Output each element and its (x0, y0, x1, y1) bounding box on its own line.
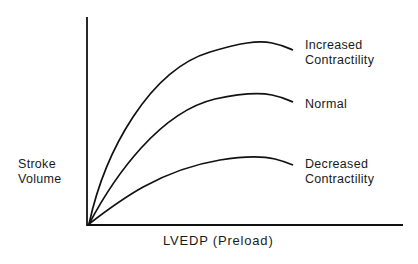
curve-increased-contractility (89, 42, 293, 224)
label-increased-line2: Contractility (305, 53, 374, 68)
curve-decreased-contractility (89, 157, 293, 224)
y-axis-label-line1: Stroke (18, 157, 62, 172)
x-axis-label: LVEDP (Preload) (163, 233, 274, 248)
label-increased-line1: Increased (305, 38, 374, 53)
y-axis-label: Stroke Volume (18, 157, 62, 187)
curve-normal (89, 94, 293, 224)
y-axis-label-line2: Volume (18, 172, 62, 187)
label-increased-contractility: Increased Contractility (305, 38, 374, 68)
label-decreased-line1: Decreased (305, 157, 374, 172)
label-decreased-line2: Contractility (305, 172, 374, 187)
label-normal: Normal (305, 97, 347, 112)
label-decreased-contractility: Decreased Contractility (305, 157, 374, 187)
